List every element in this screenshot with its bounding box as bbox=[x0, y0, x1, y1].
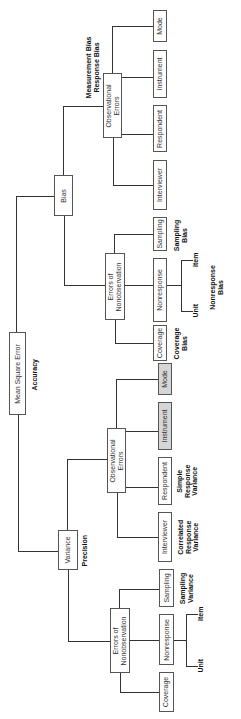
bias-coverage-leaf: Coverage bbox=[153, 325, 167, 361]
connector bbox=[116, 379, 117, 428]
connector bbox=[186, 614, 187, 667]
measurement-bias-text: Measurement Bias bbox=[86, 37, 93, 99]
bias-instrument-leaf: Instrument bbox=[153, 50, 167, 98]
connector bbox=[114, 234, 153, 235]
connector bbox=[114, 234, 115, 253]
connector bbox=[68, 570, 69, 642]
mean-square-error-node: Mean Square Error bbox=[9, 332, 26, 415]
connector bbox=[115, 343, 153, 344]
connector bbox=[112, 26, 153, 27]
connector bbox=[113, 185, 153, 186]
spine-line bbox=[18, 415, 19, 552]
connector bbox=[116, 379, 158, 380]
connector bbox=[117, 493, 118, 538]
variance-node: Variance bbox=[58, 530, 78, 570]
variance-respondent-leaf: Respondent bbox=[158, 457, 172, 505]
simple-response-variance-annotation: SimpleResponseVariance bbox=[174, 455, 202, 507]
response-bias-text: Response Bias bbox=[93, 42, 100, 92]
connector bbox=[64, 285, 105, 286]
correlated-response-variance-annotation: CorrelatedResponseVariance bbox=[174, 508, 202, 566]
connector bbox=[68, 641, 110, 642]
connector bbox=[125, 285, 153, 286]
accuracy-annotation: Accuracy bbox=[28, 345, 42, 405]
bias-mode-leaf: Mode bbox=[153, 10, 167, 42]
bias-interviewer-leaf: Interviewer bbox=[153, 160, 167, 210]
variance-nonobservation-node: Errors ofNonobservation bbox=[110, 608, 130, 673]
connector bbox=[130, 640, 159, 641]
connector bbox=[174, 640, 186, 641]
connector bbox=[67, 459, 107, 460]
item-label: Item bbox=[196, 604, 206, 624]
variance-nonresponse-leaf: Nonresponse bbox=[159, 614, 174, 665]
connector bbox=[126, 431, 158, 432]
connector bbox=[112, 26, 113, 73]
variance-mode-leaf: Mode bbox=[158, 363, 172, 395]
connector bbox=[122, 134, 153, 135]
bias-sampling-leaf: Sampling bbox=[153, 217, 167, 251]
connector bbox=[167, 285, 181, 286]
item-label: Item bbox=[191, 250, 201, 270]
connector bbox=[181, 260, 182, 312]
coverage-bias-annotation: CoverageBias bbox=[170, 322, 192, 364]
bias-observational-errors-node: ObservationalErrors bbox=[103, 73, 122, 138]
connector bbox=[126, 487, 158, 488]
connector bbox=[63, 106, 103, 107]
connector bbox=[16, 196, 54, 197]
sampling-variance-annotation: SamplingVariance bbox=[176, 566, 198, 610]
connector bbox=[117, 537, 158, 538]
variance-sampling-leaf: Sampling bbox=[159, 569, 174, 607]
unit-label: Unit bbox=[196, 656, 206, 676]
variance-instrument-leaf: Instrument bbox=[158, 402, 172, 450]
connector bbox=[120, 673, 121, 693]
bias-nonresponse-leaf: Nonresponse bbox=[153, 258, 167, 322]
connector bbox=[122, 77, 153, 78]
measurement-bias-annotation: Measurement BiasResponse Bias bbox=[82, 30, 104, 105]
connector bbox=[120, 692, 159, 693]
variance-coverage-leaf: Coverage bbox=[159, 672, 174, 712]
bias-respondent-leaf: Respondent bbox=[153, 105, 167, 152]
precision-annotation: Precision bbox=[79, 530, 91, 572]
variance-interviewer-leaf: Interviewer bbox=[158, 512, 172, 562]
bias-node: Bias bbox=[54, 175, 73, 216]
connector bbox=[113, 138, 114, 185]
bias-nonobservation-node: Errors ofNonobservation bbox=[105, 253, 125, 320]
nonresponse-bias-annotation: NonresponseBias bbox=[205, 255, 227, 320]
connector bbox=[67, 459, 68, 530]
connector bbox=[119, 589, 159, 590]
connector bbox=[115, 320, 116, 344]
connector bbox=[18, 551, 58, 552]
connector bbox=[64, 216, 65, 286]
unit-label: Unit bbox=[191, 301, 201, 321]
spine-line bbox=[16, 196, 17, 332]
sampling-bias-annotation: SamplingBias bbox=[170, 215, 192, 255]
connector bbox=[63, 106, 64, 175]
variance-observational-errors-node: ObservationalErrors bbox=[107, 428, 126, 493]
connector bbox=[119, 589, 120, 608]
